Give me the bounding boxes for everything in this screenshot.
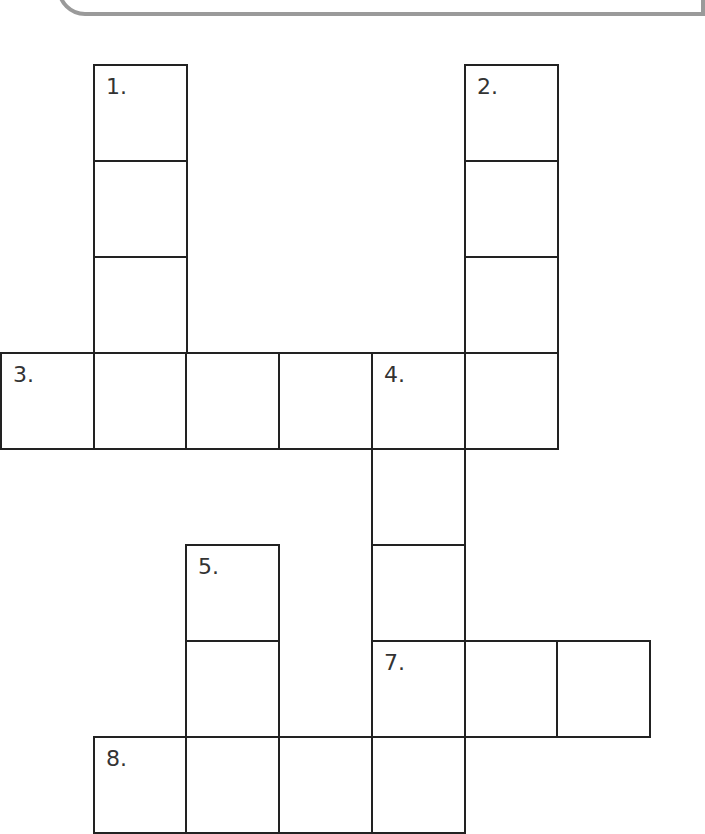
clue-number: 3. [13,364,34,386]
crossword-cell[interactable] [464,160,559,258]
crossword-cell[interactable] [185,736,280,834]
crossword-cell[interactable] [464,352,559,450]
clue-number: 1. [106,76,127,98]
crossword-cell[interactable] [185,640,280,738]
crossword-cell[interactable] [93,352,188,450]
clue-number: 8. [106,748,127,770]
crossword-cell-5[interactable]: 5. [185,544,280,642]
clue-number: 2. [477,76,498,98]
crossword-cell[interactable] [371,736,466,834]
crossword-cell-8[interactable]: 8. [93,736,188,834]
crossword-cell[interactable] [93,256,188,354]
crossword-cell-1[interactable]: 1. [93,64,188,162]
clue-number: 4. [384,364,405,386]
crossword-cell-3[interactable]: 3. [0,352,95,450]
crossword-cell-4[interactable]: 4. [371,352,466,450]
crossword-cell-2[interactable]: 2. [464,64,559,162]
clue-number: 7. [384,652,405,674]
crossword-cell[interactable] [93,160,188,258]
crossword-cell[interactable] [278,352,373,450]
crossword-cell[interactable] [185,352,280,450]
crossword-cell[interactable] [278,736,373,834]
crossword-cell[interactable] [371,544,466,642]
crossword-cell[interactable] [556,640,651,738]
crossword-cell[interactable] [464,640,559,738]
clue-number: 5. [198,556,219,578]
crossword-cell[interactable] [464,256,559,354]
header-banner-border [57,0,705,16]
crossword-cell-7[interactable]: 7. [371,640,466,738]
crossword-cell[interactable] [371,448,466,546]
